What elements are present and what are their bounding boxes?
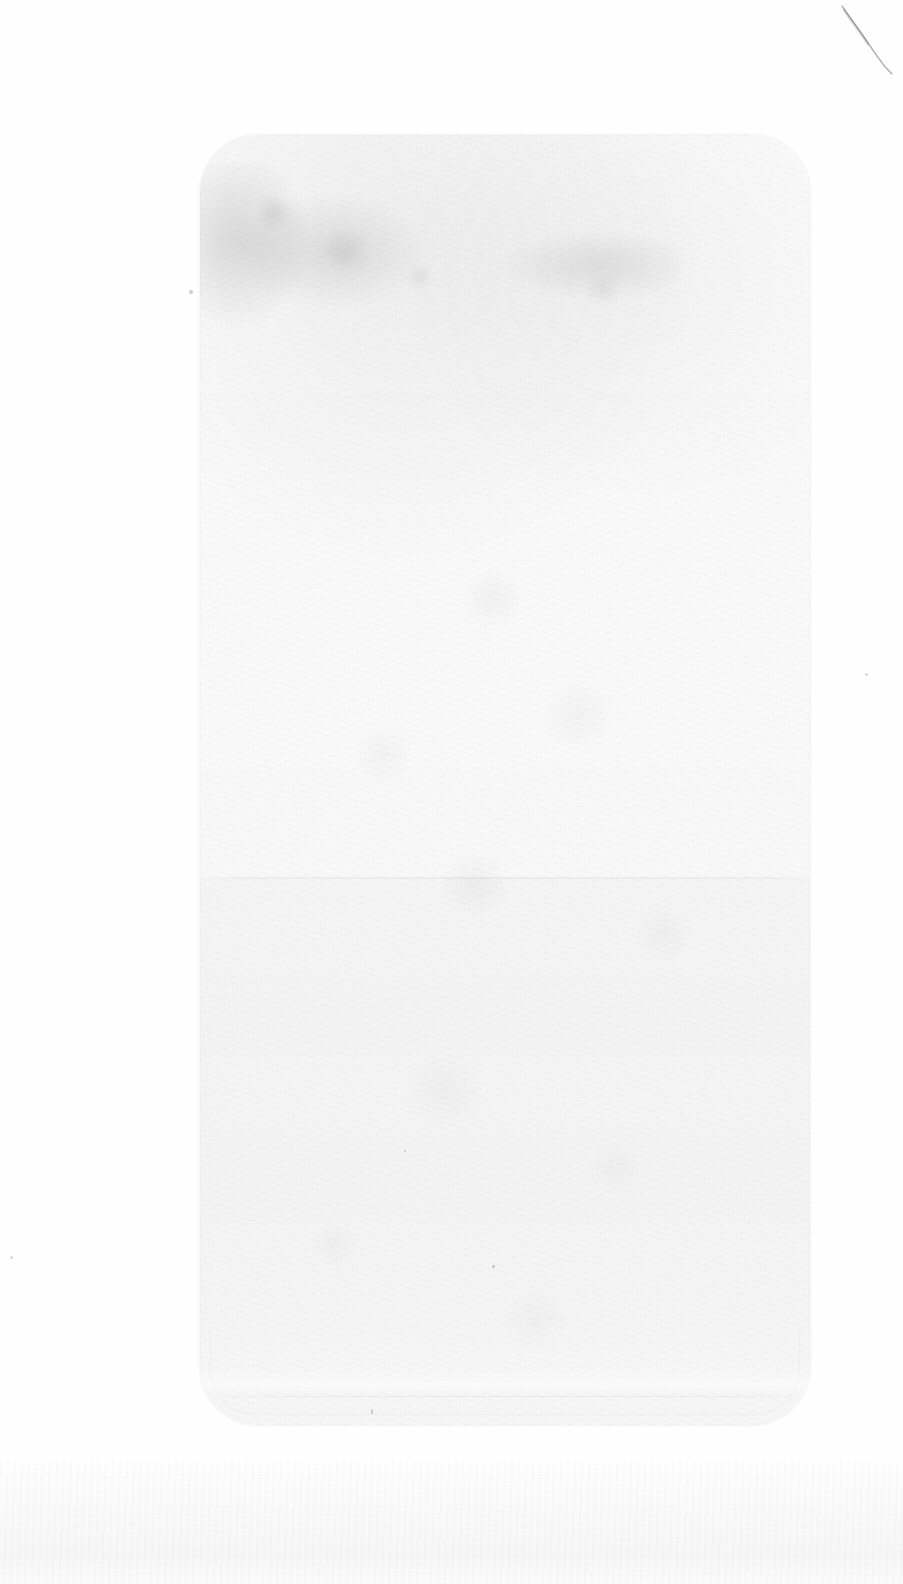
ink-speck (189, 290, 193, 294)
toner-blot-upper-left-2 (236, 191, 426, 311)
panel-divider (200, 877, 810, 879)
toner-blot-upper-right (500, 230, 680, 300)
inner-bezel-curve (210, 1330, 800, 1415)
ink-speck (865, 673, 868, 676)
inner-bezel-line (214, 1396, 796, 1398)
corner-crease (836, 4, 896, 78)
bottom-texture-band (0, 1460, 903, 1584)
ink-speck (10, 1256, 13, 1259)
ink-speck (371, 1409, 373, 1414)
scanned-page (0, 0, 903, 1584)
device-label (200, 135, 201, 136)
page-caption (0, 0, 1, 1)
ink-speck (492, 1265, 495, 1268)
phone-outline (200, 135, 810, 1425)
ink-speck (404, 1150, 406, 1152)
